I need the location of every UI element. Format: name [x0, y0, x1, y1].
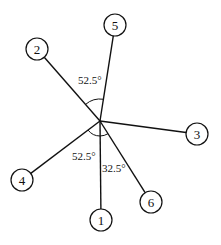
node-6: 6 — [140, 191, 162, 213]
edge-to-node-3 — [100, 121, 186, 133]
edge-to-node-1 — [100, 121, 101, 209]
node-2: 2 — [26, 38, 48, 60]
node-label: 2 — [34, 42, 41, 57]
node-label: 5 — [112, 18, 119, 33]
edge-to-node-5 — [100, 36, 113, 121]
angle-arc-2-5 — [86, 99, 104, 104]
angle-label-2-5: 52.5° — [78, 74, 102, 86]
angle-label-4-1: 52.5° — [72, 150, 96, 162]
radial-node-diagram: 123456 52.5° 52.5° 32.5° — [0, 0, 221, 245]
node-3: 3 — [186, 123, 208, 145]
edge-to-node-4 — [31, 121, 100, 173]
edges — [31, 36, 186, 209]
edge-to-node-6 — [100, 121, 145, 193]
node-label: 1 — [98, 213, 105, 228]
edge-to-node-2 — [44, 57, 100, 121]
angle-arc-1-6 — [100, 134, 108, 136]
node-5: 5 — [104, 14, 126, 36]
node-label: 4 — [19, 173, 26, 188]
angle-label-1-6: 32.5° — [102, 162, 126, 174]
node-1: 1 — [90, 209, 112, 231]
angle-arc-4-1 — [88, 130, 100, 136]
node-label: 6 — [148, 195, 155, 210]
node-4: 4 — [11, 169, 33, 191]
node-label: 3 — [194, 127, 201, 142]
